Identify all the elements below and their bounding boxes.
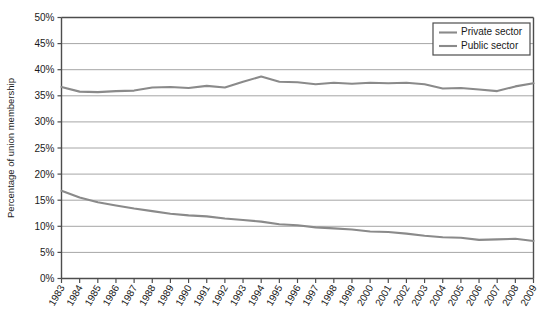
y-axis-title: Percentage of union membership xyxy=(5,78,16,218)
chart-legend: Private sectorPublic sector xyxy=(433,23,530,55)
x-tick-label: 1990 xyxy=(173,283,194,308)
x-tick-label: 2007 xyxy=(482,283,503,308)
union-membership-chart: 0%5%10%15%20%25%30%35%40%45%50% 19831984… xyxy=(0,0,558,325)
x-tick-label: 1983 xyxy=(46,283,67,308)
x-axis-ticks: 1983198419851986198719881989199019911992… xyxy=(46,279,539,308)
y-tick-label: 0% xyxy=(40,273,55,284)
x-tick-label: 1989 xyxy=(155,283,176,308)
legend-label-private-sector: Private sector xyxy=(461,26,523,37)
x-tick-label: 1985 xyxy=(82,283,103,308)
x-tick-label: 2001 xyxy=(373,283,394,308)
x-tick-label: 2005 xyxy=(445,283,466,308)
x-tick-label: 1986 xyxy=(101,283,122,308)
y-tick-label: 40% xyxy=(34,64,54,75)
x-tick-label: 1993 xyxy=(228,283,249,308)
y-axis-ticks: 0%5%10%15%20%25%30%35%40%45%50% xyxy=(34,12,61,284)
x-tick-label: 1995 xyxy=(264,283,285,308)
y-tick-label: 20% xyxy=(34,169,54,180)
data-series xyxy=(62,76,534,240)
x-tick-label: 1991 xyxy=(191,283,212,308)
gridlines xyxy=(62,44,534,253)
y-tick-label: 35% xyxy=(34,90,54,101)
x-tick-label: 1999 xyxy=(337,283,358,308)
x-tick-label: 2002 xyxy=(391,283,412,308)
x-tick-label: 1992 xyxy=(209,283,230,308)
x-tick-label: 2006 xyxy=(464,283,485,308)
y-tick-label: 15% xyxy=(34,195,54,206)
legend-label-public-sector: Public sector xyxy=(461,40,519,51)
y-tick-label: 45% xyxy=(34,38,54,49)
chart-canvas: 0%5%10%15%20%25%30%35%40%45%50% 19831984… xyxy=(0,0,558,325)
series-line-public-sector xyxy=(62,76,534,92)
x-tick-label: 2000 xyxy=(355,283,376,308)
y-axis-title-text: Percentage of union membership xyxy=(5,78,16,218)
y-tick-label: 5% xyxy=(40,247,55,258)
x-tick-label: 1997 xyxy=(300,283,321,308)
x-tick-label: 2008 xyxy=(500,283,521,308)
x-tick-label: 1987 xyxy=(119,283,140,308)
series-line-private-sector xyxy=(62,191,534,241)
y-tick-label: 30% xyxy=(34,116,54,127)
x-tick-label: 1988 xyxy=(137,283,158,308)
x-tick-label: 1998 xyxy=(318,283,339,308)
y-tick-label: 50% xyxy=(34,12,54,23)
x-tick-label: 2004 xyxy=(427,283,448,308)
x-tick-label: 1996 xyxy=(282,283,303,308)
x-tick-label: 2009 xyxy=(518,283,539,308)
x-tick-label: 1984 xyxy=(64,283,85,308)
y-tick-label: 25% xyxy=(34,143,54,154)
y-tick-label: 10% xyxy=(34,221,54,232)
x-tick-label: 1994 xyxy=(246,283,267,308)
x-tick-label: 2003 xyxy=(409,283,430,308)
